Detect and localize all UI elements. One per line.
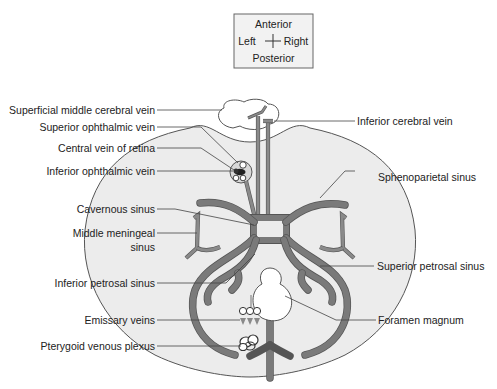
label-superior-ophthalmic-vein: Superior ophthalmic vein: [39, 121, 155, 133]
orientation-anterior: Anterior: [255, 18, 292, 30]
label-middle-meningeal-sinus-line2: sinus: [130, 241, 155, 253]
label-central-vein-of-retina: Central vein of retina: [58, 142, 155, 154]
label-superior-petrosal-sinus: Superior petrosal sinus: [377, 260, 484, 272]
label-inferior-ophthalmic-vein: Inferior ophthalmic vein: [46, 165, 155, 177]
label-cavernous-sinus: Cavernous sinus: [77, 203, 155, 215]
label-foramen-magnum: Foramen magnum: [378, 314, 464, 326]
label-sphenoparietal-sinus: Sphenoparietal sinus: [378, 171, 476, 183]
label-emissary-veins: Emissary veins: [84, 314, 155, 326]
orientation-compass: Anterior Left Right Posterior: [234, 14, 313, 68]
label-inferior-cerebral-vein: Inferior cerebral vein: [357, 115, 453, 127]
orientation-posterior: Posterior: [252, 52, 295, 64]
label-pterygoid-venous-plexus: Pterygoid venous plexus: [41, 340, 155, 352]
labels-left: Superficial middle cerebral vein Superio…: [9, 104, 155, 352]
label-inferior-petrosal-sinus: Inferior petrosal sinus: [55, 277, 155, 289]
label-middle-meningeal-sinus: Middle meningeal: [73, 227, 155, 239]
orientation-left: Left: [238, 35, 256, 47]
cranial-venous-sinus-diagram: Anterior Left Right Posterior: [0, 0, 497, 389]
orientation-right: Right: [284, 35, 309, 47]
label-superficial-middle-cerebral-vein: Superficial middle cerebral vein: [9, 104, 155, 116]
cavernous-sinus-shape: [254, 218, 286, 240]
